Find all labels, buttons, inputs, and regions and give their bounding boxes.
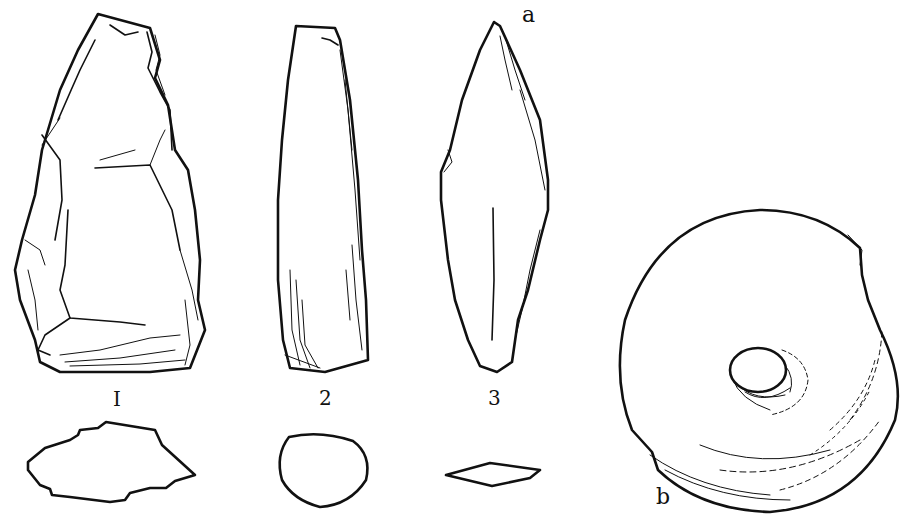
- celt-cross-section: [280, 434, 368, 507]
- figure-number-1: I: [113, 387, 121, 411]
- blade-drawing: [441, 22, 548, 372]
- ring-stone-drawing: [620, 210, 898, 512]
- figure-number-3: 3: [488, 386, 501, 410]
- figure-number-2: 2: [319, 386, 332, 410]
- illustration-plate: [0, 0, 914, 517]
- celt-drawing: [278, 26, 368, 372]
- hand-axe-cross-section: [28, 422, 195, 502]
- blade-cross-section: [446, 463, 540, 486]
- hand-axe-drawing: [15, 14, 205, 372]
- figure-letter-a: a: [522, 2, 535, 27]
- figure-letter-b: b: [656, 484, 670, 509]
